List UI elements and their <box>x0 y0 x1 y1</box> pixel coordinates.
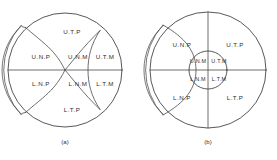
diagram-b-svg: U.N.P U.T.P U.N.M U.T.M L.N.M L.T.M L.N.… <box>138 0 277 160</box>
region-label-lnp: L.N.P <box>32 80 50 87</box>
region-label-ltp: L.T.P <box>64 106 81 113</box>
region-label-unp: U.N.P <box>31 53 50 60</box>
region-label-lnm: L.N.M <box>68 80 87 87</box>
curve-lower-left <box>26 70 66 113</box>
panel-caption-a: (a) <box>61 139 68 145</box>
curve-lower-right <box>65 70 100 110</box>
region-label-utm: U.T.M <box>211 58 227 64</box>
region-label-utm: U.T.M <box>96 53 115 60</box>
region-label-lnp: L.N.P <box>173 94 191 101</box>
curve-upper-left <box>26 28 66 71</box>
region-label-lnm: L.N.M <box>190 76 206 82</box>
region-label-utp: U.T.P <box>63 28 81 35</box>
region-label-ltm: L.T.M <box>212 76 227 82</box>
rim-join-top <box>21 26 26 28</box>
curve-upper-right <box>65 31 100 71</box>
region-label-ltm: L.T.M <box>96 80 114 87</box>
region-label-ltp: L.T.P <box>227 94 244 101</box>
figure-root: U.T.P U.N.P U.N.M U.T.M L.N.P L.N.M L.T.… <box>0 0 277 160</box>
diagram-panel-b: U.N.P U.T.P U.N.M U.T.M L.N.M L.T.M L.N.… <box>138 0 277 160</box>
region-label-utp: U.T.P <box>226 41 244 48</box>
diagram-a-svg: U.T.P U.N.P U.N.M U.T.M L.N.P L.N.M L.T.… <box>0 0 139 160</box>
region-label-unm: U.N.M <box>190 58 207 64</box>
diagram-panel-a: U.T.P U.N.P U.N.M U.T.M L.N.P L.N.M L.T.… <box>0 0 139 160</box>
panel-caption-b: (b) <box>204 139 211 145</box>
rim-join-bottom <box>21 113 26 115</box>
region-label-unm: U.N.M <box>68 53 88 60</box>
region-label-unp: U.N.P <box>172 41 191 48</box>
